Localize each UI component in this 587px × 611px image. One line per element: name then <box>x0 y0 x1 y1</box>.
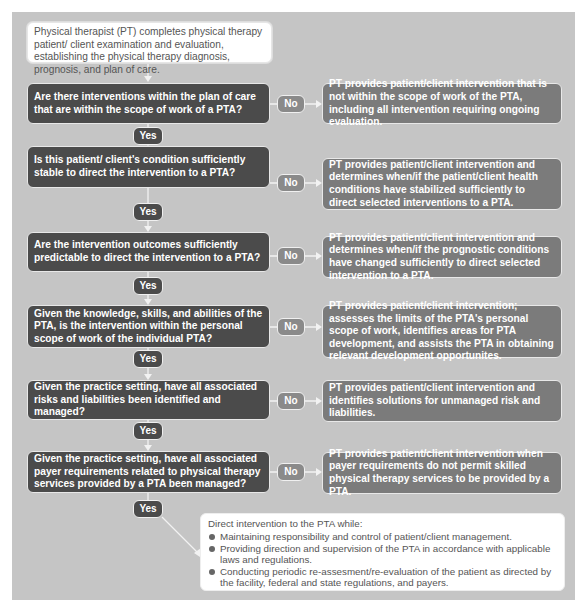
question-box-1: Are there interventions within the plan … <box>27 83 270 124</box>
question-box-6: Given the practice setting, have all ass… <box>27 451 270 493</box>
question-box-5: Given the practice setting, have all ass… <box>27 380 270 420</box>
no-label: No <box>277 463 305 481</box>
no-label: No <box>277 174 305 192</box>
outcome-box-4: PT provides patient/client intervention;… <box>322 305 562 358</box>
final-bullet-list: Maintaining responsibility and control o… <box>208 531 557 588</box>
yes-label: Yes <box>133 127 163 145</box>
question-text: Is this patient/ client's condition suff… <box>34 154 263 179</box>
yes-label: Yes <box>133 203 163 221</box>
yes-label: Yes <box>133 277 163 295</box>
outcome-text: PT provides patient/client intervention … <box>329 159 555 209</box>
yes-label: Yes <box>133 500 163 518</box>
question-box-3: Are the intervention outcomes sufficient… <box>27 232 270 272</box>
yes-label: Yes <box>133 422 163 440</box>
no-label: No <box>277 247 305 265</box>
outcome-box-1: PT provides patient/client intervention … <box>322 83 562 124</box>
question-text: Are the intervention outcomes sufficient… <box>34 239 263 264</box>
outcome-box-6: PT provides patient/client intervention … <box>322 452 562 494</box>
question-text: Are there interventions within the plan … <box>34 91 263 116</box>
outcome-box-3: PT provides patient/client intervention … <box>322 236 562 278</box>
outcome-text: PT provides patient/client intervention;… <box>329 300 555 363</box>
no-label: No <box>277 392 305 410</box>
final-bullet: Providing direction and supervision of t… <box>208 543 557 566</box>
question-text: Given the practice setting, have all ass… <box>34 453 263 491</box>
outcome-box-5: PT provides patient/client intervention … <box>322 380 562 422</box>
final-box: Direct intervention to the PTA while: Ma… <box>200 513 565 591</box>
outcome-text: PT provides patient/client intervention … <box>329 232 555 282</box>
yes-label: Yes <box>133 350 163 368</box>
final-bullet: Conducting periodic re-assesment/re-eval… <box>208 566 557 589</box>
question-box-4: Given the knowledge, skills, and abiliti… <box>27 305 270 348</box>
no-label: No <box>277 318 305 336</box>
final-heading: Direct intervention to the PTA while: <box>208 518 557 529</box>
outcome-text: PT provides patient/client intervention … <box>329 382 555 420</box>
outcome-box-2: PT provides patient/client intervention … <box>322 158 562 210</box>
final-bullet: Maintaining responsibility and control o… <box>208 531 557 542</box>
question-text: Given the knowledge, skills, and abiliti… <box>34 308 263 346</box>
question-text: Given the practice setting, have all ass… <box>34 381 263 419</box>
no-label: No <box>277 95 305 113</box>
question-box-2: Is this patient/ client's condition suff… <box>27 146 270 188</box>
start-box: Physical therapist (PT) completes physic… <box>27 22 272 63</box>
outcome-text: PT provides patient/client intervention … <box>329 448 555 498</box>
outcome-text: PT provides patient/client intervention … <box>329 78 555 128</box>
